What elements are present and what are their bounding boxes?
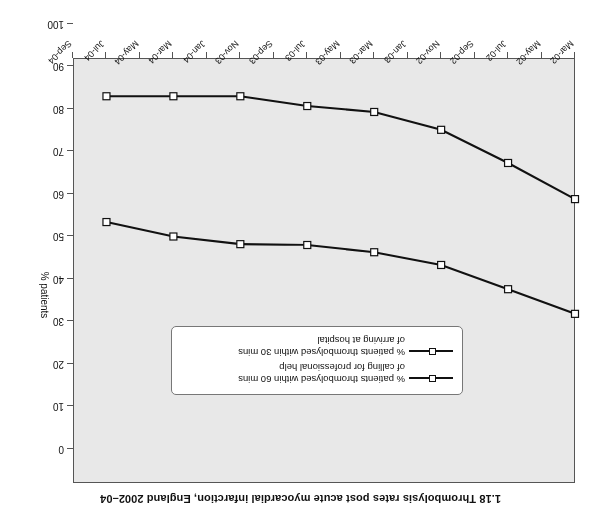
legend-label-60min: % patients thrombolysed within 60 mins o… (238, 362, 409, 385)
data-point-marker (237, 93, 244, 100)
data-point-marker (103, 219, 110, 226)
series-line-30min (106, 96, 575, 199)
data-point-marker (371, 108, 378, 115)
data-point-marker (170, 93, 177, 100)
chart-figure: 1.18 Thrombolysis rates post acute myoca… (0, 0, 601, 507)
chart-legend: % patients thrombolysed within 60 mins o… (171, 326, 463, 395)
data-point-marker (237, 241, 244, 248)
legend-label-30min-line2: of arriving at hospital (317, 336, 405, 347)
data-point-marker (572, 310, 579, 317)
legend-item-30min: % patients thrombolysed within 30 mins o… (181, 335, 453, 358)
data-point-marker (505, 159, 512, 166)
legend-key-icon (409, 372, 453, 384)
data-point-marker (572, 196, 579, 203)
data-point-marker (103, 93, 110, 100)
rotated-figure-wrapper: 1.18 Thrombolysis rates post acute myoca… (0, 0, 601, 507)
data-point-marker (438, 261, 445, 268)
data-point-marker (438, 126, 445, 133)
series-plot (0, 0, 601, 507)
data-point-marker (170, 233, 177, 240)
data-point-marker (505, 286, 512, 293)
legend-key-icon (409, 345, 453, 357)
legend-item-60min: % patients thrombolysed within 60 mins o… (181, 362, 453, 385)
data-point-marker (371, 249, 378, 256)
legend-label-30min: % patients thrombolysed within 30 mins o… (238, 335, 409, 358)
legend-label-60min-line1: % patients thrombolysed within 60 mins (238, 374, 405, 385)
chart-screenshot: 1.18 Thrombolysis rates post acute myoca… (0, 0, 601, 507)
data-point-marker (304, 103, 311, 110)
data-point-marker (304, 242, 311, 249)
legend-label-30min-line1: % patients thrombolysed within 30 mins (238, 347, 405, 358)
legend-label-60min-line2: of calling for professional help (279, 363, 405, 374)
